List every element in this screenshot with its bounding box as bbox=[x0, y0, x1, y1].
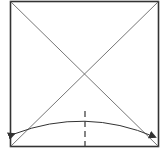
origami-diagram bbox=[0, 0, 168, 157]
